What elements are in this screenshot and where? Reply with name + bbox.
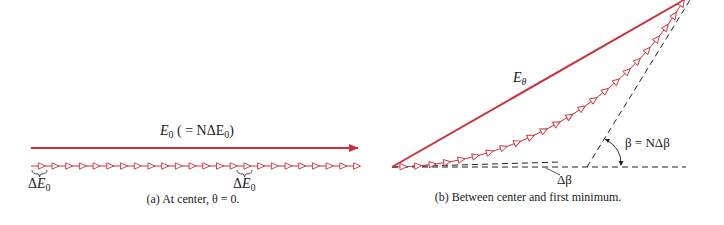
phasor-triangle-icon	[244, 163, 251, 169]
beta-angle-label: β = NΔβ	[625, 136, 670, 149]
phasor-triangle-icon	[670, 10, 679, 19]
phasor-triangle-icon	[577, 103, 586, 112]
phasor-triangle-icon	[443, 158, 451, 165]
phasor-triangle-icon	[189, 163, 196, 169]
phasor-triangle-icon	[175, 163, 182, 169]
phasor-triangle-icon	[107, 163, 114, 169]
phasor-triangle-icon	[354, 163, 361, 169]
phasor-triangle-icon	[312, 163, 319, 169]
phasor-triangle-icon	[285, 163, 292, 169]
caption-b: (b) Between center and first minimum.	[435, 191, 622, 203]
phasor-triangle-icon	[513, 138, 522, 146]
phasor-triangle-icon	[527, 132, 536, 141]
phasor-triangle-icon	[216, 163, 223, 169]
phasor-triangle-icon	[540, 126, 549, 135]
phasor-triangle-icon	[414, 162, 421, 169]
delta-e0-label-mid: ΔE0	[233, 177, 256, 193]
phasor-triangle-icon	[553, 119, 562, 128]
phasor-triangle-icon	[565, 111, 574, 120]
phasor-triangle-icon	[230, 163, 237, 169]
phasor-triangle-icon	[66, 163, 73, 169]
phasor-triangle-icon	[326, 163, 333, 169]
phasor-triangle-icon	[678, 0, 687, 7]
panel-a	[31, 148, 361, 177]
phasor-triangle-icon	[500, 143, 509, 151]
phasor-triangle-icon	[148, 163, 155, 169]
phasor-triangle-icon	[400, 163, 407, 170]
phasor-triangle-icon	[121, 163, 128, 169]
phasor-triangle-icon	[38, 163, 45, 169]
phasor-triangle-icon	[458, 156, 466, 164]
beta-arc-arrowhead-top	[605, 139, 610, 143]
phasor-triangle-icon	[52, 163, 59, 169]
phasor-triangle-icon	[486, 148, 495, 156]
phasor-triangle-icon	[589, 95, 598, 104]
phasor-triangle-icon	[162, 163, 169, 169]
phasor-triangle-icon	[79, 163, 86, 169]
phasor-triangle-icon	[271, 163, 278, 169]
beta-arc-arrowhead-bottom	[619, 161, 624, 166]
caption-a: (a) At center, θ = 0.	[147, 193, 240, 205]
delta-beta-label: Δβ	[557, 173, 572, 186]
phasor-triangle-icon	[661, 22, 670, 31]
phasor-triangle-icon	[299, 163, 306, 169]
resultant-e0-label: E0 ( = NΔE0)	[160, 124, 234, 140]
phasor-triangle-icon	[134, 163, 141, 169]
phasor-triangle-icon	[258, 163, 265, 169]
phasor-triangle-icon	[203, 163, 210, 169]
phasor-triangle-icon	[340, 163, 347, 169]
resultant-etheta-label: Eθ	[513, 71, 526, 87]
phasor-triangle-icon	[472, 152, 480, 160]
delta-e0-label-left: ΔE0	[28, 177, 51, 193]
phasor-triangle-icon	[93, 163, 100, 169]
